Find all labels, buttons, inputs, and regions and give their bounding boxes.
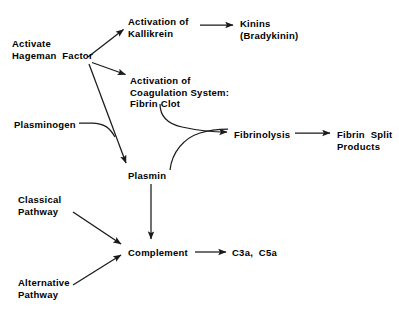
classical-pathway-label: ClassicalPathway	[18, 194, 61, 217]
activate-hageman-factor-label-line: Activate	[12, 38, 93, 50]
classical-pathway-label-line: Pathway	[18, 206, 61, 218]
kinins-label-line: Kinins	[240, 18, 298, 30]
activation-of-kallikrein-label-line: Activation of	[128, 16, 189, 28]
fibrinolysis-label-line: Fibrinolysis	[234, 129, 290, 141]
classical-pathway-label-line: Classical	[18, 194, 61, 206]
plasminogen-label: Plasminogen	[14, 119, 76, 131]
alternative-pathway-label-line: Pathway	[18, 289, 70, 301]
activate-hageman-factor-label: ActivateHageman Factor	[12, 38, 93, 61]
edge-plasmin-to-fibrinolysis	[170, 129, 228, 170]
edge-plasminogen-to-plasmin	[79, 123, 115, 137]
plasmin-label-line: Plasmin	[128, 170, 166, 182]
fibrin-split-products-label-line: Products	[337, 141, 393, 153]
plasminogen-label-line: Plasminogen	[14, 119, 76, 131]
flow-diagram: ActivateHageman Factor Activation ofKall…	[0, 0, 399, 309]
alternative-pathway-label: AlternativePathway	[18, 277, 70, 300]
activation-of-coagulation-system-label-line: Coagulation System:	[130, 87, 229, 99]
c3a-c5a-label: C3a, C5a	[232, 247, 277, 259]
c3a-c5a-label-line: C3a, C5a	[232, 247, 277, 259]
fibrinolysis-label: Fibrinolysis	[234, 129, 290, 141]
activation-of-kallikrein-label: Activation ofKallikrein	[128, 16, 189, 39]
edge-classical-to-complement	[73, 212, 121, 244]
activation-of-kallikrein-label-line: Kallikrein	[128, 28, 189, 40]
activate-hageman-factor-label-line: Hageman Factor	[12, 50, 93, 62]
edge-hageman-to-kallikrein	[88, 30, 124, 58]
alternative-pathway-label-line: Alternative	[18, 277, 70, 289]
kinins-label-line: (Bradykinin)	[240, 30, 298, 42]
plasmin-label: Plasmin	[128, 170, 166, 182]
edge-alternative-to-complement	[73, 255, 121, 285]
activation-of-coagulation-system-label-line: Fibrin Clot	[130, 98, 229, 110]
fibrin-split-products-label-line: Fibrin Split	[337, 129, 393, 141]
complement-label-line: Complement	[128, 247, 188, 259]
edge-hageman-to-plasmin	[89, 64, 126, 163]
activation-of-coagulation-system-label-line: Activation of	[130, 75, 229, 87]
kinins-label: Kinins(Bradykinin)	[240, 18, 298, 41]
activation-of-coagulation-system-label: Activation ofCoagulation System:Fibrin C…	[130, 75, 229, 110]
fibrin-split-products-label: Fibrin SplitProducts	[337, 129, 393, 152]
edge-hageman-to-coagulation	[92, 63, 126, 75]
complement-label: Complement	[128, 247, 188, 259]
